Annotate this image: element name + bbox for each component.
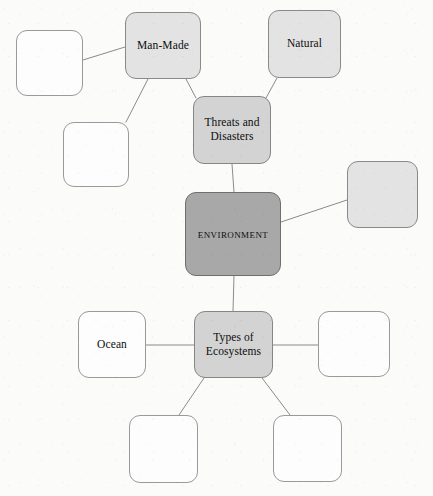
- node-types-of-ecosystems[interactable]: Types of Ecosystems: [194, 311, 273, 378]
- node-label-natural: Natural: [283, 37, 326, 51]
- edge-manmade-blanktopleft: [83, 47, 125, 60]
- edge-ecosystems-blankbottomleft: [179, 378, 204, 415]
- node-blank-bottom-right[interactable]: [273, 415, 342, 482]
- edge-environment-blankright: [281, 200, 347, 222]
- node-environment[interactable]: Environment: [185, 192, 281, 276]
- concept-map-canvas: EnvironmentThreats and DisastersTypes of…: [0, 0, 433, 496]
- node-blank-right-of-environment[interactable]: [347, 161, 418, 228]
- node-blank-left-lower[interactable]: [63, 122, 129, 187]
- node-label-environment: Environment: [194, 226, 272, 242]
- edge-manmade-blankleftlower: [126, 79, 148, 122]
- edge-environment-ecosystems: [233, 276, 234, 311]
- node-blank-right-of-ecosystems[interactable]: [318, 311, 390, 377]
- node-label-types-of-ecosystems: Types of Ecosystems: [202, 331, 265, 358]
- node-blank-bottom-left[interactable]: [129, 415, 198, 483]
- node-label-man-made: Man-Made: [133, 39, 193, 53]
- node-label-threats-and-disasters: Threats and Disasters: [200, 116, 263, 143]
- node-label-ocean: Ocean: [93, 338, 131, 352]
- edge-environment-threats: [232, 164, 234, 192]
- edge-threats-manmade: [186, 79, 196, 98]
- node-man-made[interactable]: Man-Made: [125, 12, 201, 79]
- edge-ecosystems-blankbottomright: [262, 378, 290, 415]
- node-ocean[interactable]: Ocean: [78, 311, 146, 378]
- node-threats-and-disasters[interactable]: Threats and Disasters: [193, 96, 271, 164]
- edge-threats-natural: [266, 78, 277, 98]
- node-natural[interactable]: Natural: [268, 10, 341, 78]
- node-blank-top-left[interactable]: [16, 30, 83, 96]
